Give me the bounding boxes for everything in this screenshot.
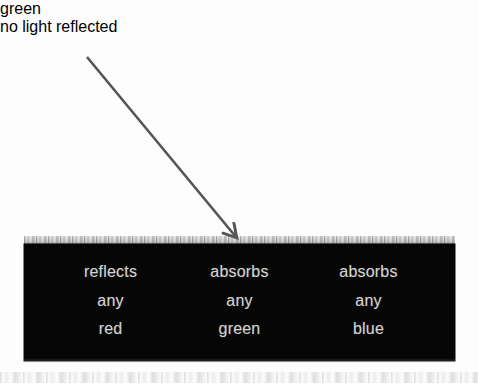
light-absorption-diagram: green no light reflected reflects any re… xyxy=(0,0,478,385)
channel-blue-line-2: any xyxy=(304,287,433,316)
channel-green-line-3: green xyxy=(175,315,304,344)
channel-red-line-1: reflects xyxy=(46,258,175,287)
arrow-shaft xyxy=(87,57,236,237)
channel-red-line-2: any xyxy=(46,287,175,316)
reflected-light-label: no light reflected xyxy=(0,18,478,36)
channel-blue-line-3: blue xyxy=(304,315,433,344)
channel-caption-group: reflects any red absorbs any green absor… xyxy=(24,258,455,344)
surface-texture-bottom xyxy=(24,358,455,363)
channel-column-red: reflects any red xyxy=(46,258,175,344)
channel-red-line-3: red xyxy=(46,315,175,344)
channel-blue-line-1: absorbs xyxy=(304,258,433,287)
channel-column-green: absorbs any green xyxy=(175,258,304,344)
scan-artifact-strip xyxy=(0,372,478,383)
channel-column-blue: absorbs any blue xyxy=(304,258,433,344)
incident-light-label: green xyxy=(0,0,478,18)
channel-green-line-2: any xyxy=(175,287,304,316)
channel-green-line-1: absorbs xyxy=(175,258,304,287)
